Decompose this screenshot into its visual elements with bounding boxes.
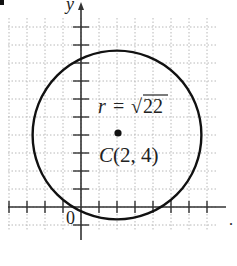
radius-value: 22 <box>143 95 163 117</box>
center-point <box>114 129 121 136</box>
origin-label: 0 <box>66 208 75 228</box>
svg-text:=: = <box>113 95 124 117</box>
x-axis-label: . <box>229 211 233 228</box>
svg-text:r: r <box>98 95 106 117</box>
problem-marker <box>0 0 4 5</box>
y-axis-label: y <box>64 0 74 14</box>
svg-text:√: √ <box>131 95 142 117</box>
y-axis <box>78 2 84 240</box>
radius-label: r = √ 22 <box>98 95 168 117</box>
center-label: C (2, 4) <box>99 143 159 167</box>
coordinate-diagram: y . 0 r = √ 22 C (2, 4) <box>0 0 237 266</box>
svg-text:(2, 4): (2, 4) <box>113 143 159 167</box>
y-axis-arrow-icon <box>78 2 84 10</box>
svg-text:C: C <box>99 143 114 167</box>
